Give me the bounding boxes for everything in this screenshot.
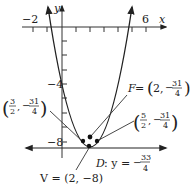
svg-text:5: 5 [141,111,146,120]
focus-label: F = ( 2, − 31 4 ) [127,78,191,98]
svg-text:2,: 2, [153,82,164,95]
svg-text:2: 2 [10,107,15,116]
svg-text:(: ( [133,111,140,133]
svg-text:4: 4 [163,121,168,130]
parabola-graph: −2 6 x y −4 −8 [0,0,192,189]
vertex-label: V = (2, −8) [39,172,103,185]
svg-text:3: 3 [10,97,15,106]
y-axis-label: y [53,2,61,15]
x-tick-label-6: 6 [142,13,149,26]
svg-text:31: 31 [160,111,170,120]
x-axis: −2 6 x [22,13,166,32]
left-point-label: ( 3 2 , − 31 4 ) [2,97,47,119]
y-axis: y −4 −8 [47,2,67,158]
svg-text:,: , [17,101,20,112]
focus-point [88,135,93,140]
svg-text:,: , [148,115,151,126]
right-point-label: ( 5 2 , − 31 4 ) [133,111,178,133]
directrix-label: D : y = − 33 4 [95,153,151,173]
svg-text:2: 2 [141,121,146,130]
right-point [95,139,99,143]
svg-text:=: = [135,82,144,95]
svg-text:31: 31 [29,97,39,106]
svg-text:): ) [171,111,178,133]
svg-text:31: 31 [172,79,182,88]
left-point [81,139,85,143]
svg-text:): ) [184,78,191,98]
x-axis-label: x [159,13,166,26]
svg-text:4: 4 [175,89,180,98]
svg-text:): ) [40,97,47,119]
points [81,135,99,149]
vertex-point [87,144,91,148]
svg-text:4: 4 [143,164,148,173]
svg-text:(: ( [2,97,9,119]
x-tick-label-neg2: −2 [22,13,38,26]
y-tick-label-neg8: −8 [47,136,63,149]
svg-text:33: 33 [141,153,151,162]
svg-text:: y =: : y = [104,157,130,170]
svg-text:4: 4 [32,107,37,116]
